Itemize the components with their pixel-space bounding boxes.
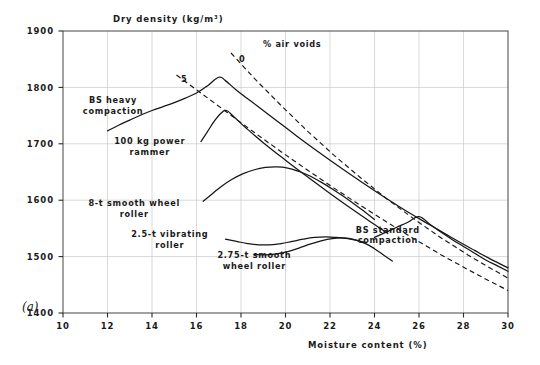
series-label-line: 2.75-t smooth bbox=[217, 250, 291, 260]
x-axis-title: Moisture content (%) bbox=[308, 340, 427, 350]
y-tick-label: 1900 bbox=[27, 26, 54, 36]
series-label-line: compaction bbox=[83, 106, 143, 116]
series-label-line: rammer bbox=[130, 147, 171, 157]
y-tick-label: 1800 bbox=[27, 83, 54, 93]
y-axis-title: Dry density (kg/m³) bbox=[113, 14, 223, 24]
annotation-air-voids-0: 0 bbox=[239, 54, 245, 64]
series-label-2-75-t-smooth-wheel-roller: 2.75-t smoothwheel roller bbox=[217, 250, 291, 271]
panel-label: (a) bbox=[22, 300, 39, 314]
series-label-line: wheel roller bbox=[223, 261, 287, 271]
x-tick-label: 12 bbox=[101, 321, 115, 331]
series-label-line: 100 kg power bbox=[114, 136, 185, 146]
compaction-curves-chart: 1012141618202224262830 14001500160017001… bbox=[0, 0, 540, 365]
annotation-air-voids-title: % air voids bbox=[263, 39, 321, 49]
series-label-bs-standard-compaction: BS standardcompaction bbox=[356, 225, 420, 246]
series-label-line: BS heavy bbox=[89, 95, 137, 105]
chart-background bbox=[0, 0, 540, 365]
x-tick-label: 28 bbox=[457, 321, 471, 331]
series-label-line: roller bbox=[120, 209, 149, 219]
y-tick-label: 1500 bbox=[27, 252, 54, 262]
annotation-air-voids-5: 5 bbox=[181, 74, 187, 84]
series-label-bs-heavy-compaction: BS heavycompaction bbox=[83, 95, 143, 116]
series-label-line: 8-t smooth wheel bbox=[88, 198, 180, 208]
x-tick-label: 22 bbox=[323, 321, 337, 331]
series-label-line: compaction bbox=[358, 235, 418, 245]
series-label-line: roller bbox=[155, 240, 184, 250]
x-tick-label: 18 bbox=[234, 321, 248, 331]
x-tick-label: 20 bbox=[279, 321, 293, 331]
x-tick-label: 30 bbox=[501, 321, 515, 331]
x-tick-label: 16 bbox=[190, 321, 204, 331]
x-tick-label: 14 bbox=[145, 321, 159, 331]
series-label-line: BS standard bbox=[356, 225, 420, 235]
series-label-line: 2.5-t vibrating bbox=[131, 229, 208, 239]
chart-figure: 1012141618202224262830 14001500160017001… bbox=[0, 0, 540, 365]
x-tick-label: 26 bbox=[412, 321, 426, 331]
x-tick-label: 10 bbox=[56, 321, 70, 331]
x-tick-label: 24 bbox=[368, 321, 382, 331]
y-tick-label: 1600 bbox=[27, 195, 54, 205]
y-tick-label: 1700 bbox=[27, 139, 54, 149]
